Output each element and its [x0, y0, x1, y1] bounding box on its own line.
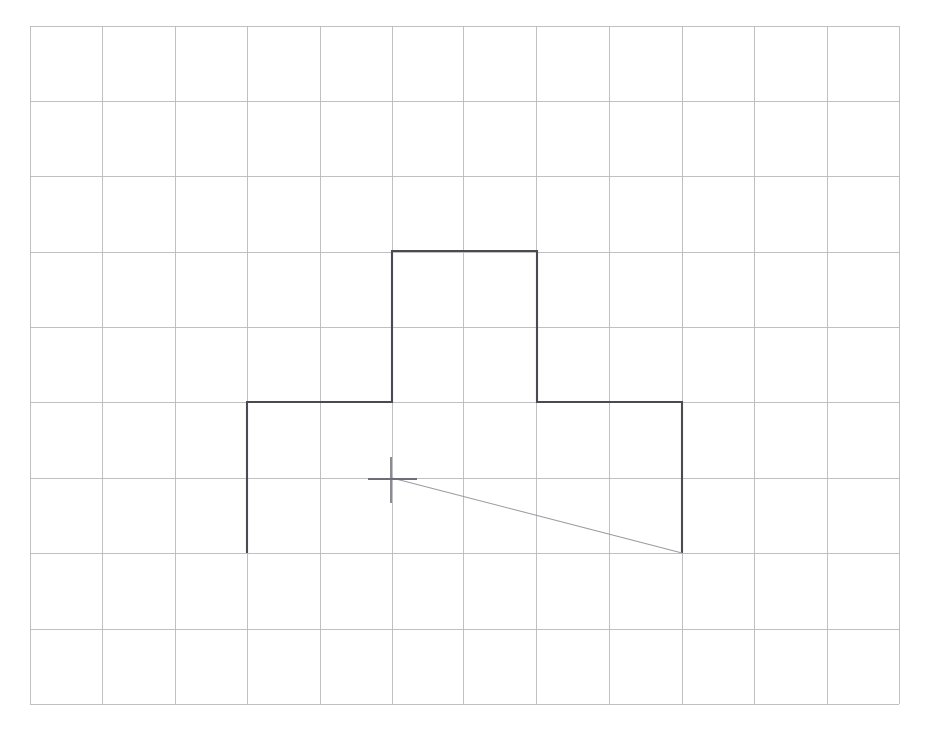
sketch-canvas [0, 0, 926, 734]
sketch-svg [0, 0, 926, 734]
